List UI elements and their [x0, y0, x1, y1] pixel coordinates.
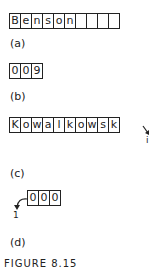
pointer-d-label: 1	[13, 210, 19, 220]
figure-caption: FIGURE 8.15	[4, 258, 77, 269]
label-a: (a)	[10, 37, 25, 50]
pointer-c-label: i	[146, 135, 149, 145]
label-b: (b)	[10, 90, 26, 103]
array-cell	[108, 13, 120, 29]
array-b: 009	[9, 63, 43, 79]
array-cell: 9	[31, 63, 43, 79]
label-c: (c)	[10, 167, 25, 180]
array-cell: 0	[49, 190, 61, 206]
array-d: 000	[27, 190, 61, 206]
pointer-arrow-d-icon	[12, 196, 28, 210]
array-c: Kowalkowsk	[9, 117, 120, 133]
array-a: Benson	[9, 13, 120, 29]
label-d: (d)	[10, 236, 26, 249]
array-cell: k	[108, 117, 120, 133]
